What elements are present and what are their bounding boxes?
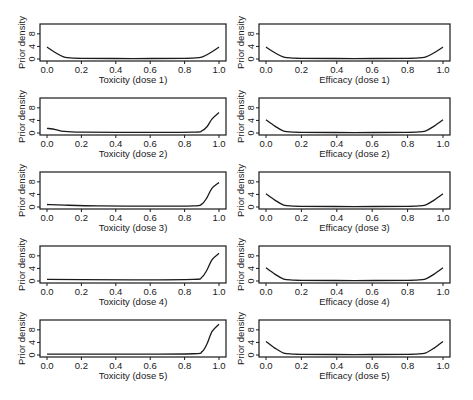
density-curve [47, 324, 219, 354]
plot-frame [40, 24, 226, 61]
x-tick-label: 0.0 [40, 64, 53, 75]
x-tick-label: 0.2 [75, 64, 88, 75]
y-tick-label: 8 [27, 253, 37, 258]
x-tick-label: 1.0 [436, 64, 449, 75]
y-axis-label: Prior density [235, 312, 246, 365]
x-tick-label: 0.8 [401, 138, 414, 149]
y-axis-label: Prior density [235, 90, 246, 143]
x-tick-label: 0.0 [40, 360, 53, 371]
x-axis-label: Toxicity (dose 2) [99, 148, 168, 159]
y-tick-label: 0 [27, 352, 37, 357]
x-tick-label: 0.8 [178, 64, 191, 75]
y-tick-label: 4 [27, 118, 37, 123]
density-curve [266, 120, 443, 133]
x-tick-label: 0.8 [401, 360, 414, 371]
y-axis-label: Prior density [16, 164, 27, 217]
y-tick-label: 4 [246, 340, 256, 345]
density-curve [266, 194, 443, 207]
x-tick-label: 0.8 [178, 286, 191, 297]
x-tick-label: 0.0 [259, 212, 272, 223]
x-tick-label: 0.0 [259, 360, 272, 371]
y-tick-label: 4 [246, 44, 256, 49]
y-axis-label: Prior density [16, 90, 27, 143]
x-tick-label: 0.0 [259, 286, 272, 297]
panel-efficacy-dose-1: 0.00.20.40.60.81.0048Prior densityEffica… [235, 16, 450, 85]
x-axis-label: Toxicity (dose 3) [99, 222, 168, 233]
x-tick-label: 0.0 [259, 138, 272, 149]
y-tick-label: 0 [27, 130, 37, 135]
x-tick-label: 0.0 [40, 138, 53, 149]
x-tick-label: 1.0 [212, 360, 225, 371]
x-tick-label: 0.2 [295, 212, 308, 223]
panel-efficacy-dose-5: 0.00.20.40.60.81.0048Prior densityEffica… [235, 312, 450, 381]
y-tick-label: 8 [246, 327, 256, 332]
density-curve [266, 47, 443, 58]
panel-toxicity-dose-3: 0.00.20.40.60.81.0048Prior densityToxici… [16, 164, 226, 233]
y-axis-label: Prior density [16, 312, 27, 365]
y-tick-label: 0 [27, 204, 37, 209]
panel-efficacy-dose-3: 0.00.20.40.60.81.0048Prior densityEffica… [235, 164, 450, 233]
x-tick-label: 0.2 [75, 138, 88, 149]
density-curve [47, 253, 219, 280]
x-tick-label: 0.0 [259, 64, 272, 75]
x-tick-label: 0.8 [401, 286, 414, 297]
x-tick-label: 0.2 [75, 360, 88, 371]
y-tick-label: 0 [246, 278, 256, 283]
x-axis-label: Efficacy (dose 4) [319, 296, 390, 307]
panel-toxicity-dose-1: 0.00.20.40.60.81.0048Prior densityToxici… [16, 16, 226, 85]
x-tick-label: 0.8 [178, 360, 191, 371]
density-curve [47, 113, 219, 133]
plot-frame [259, 320, 450, 357]
y-tick-label: 4 [27, 192, 37, 197]
y-tick-label: 8 [27, 179, 37, 184]
y-tick-label: 8 [27, 327, 37, 332]
x-tick-label: 0.8 [401, 212, 414, 223]
y-tick-label: 0 [246, 56, 256, 61]
plot-frame [40, 246, 226, 283]
x-axis-label: Efficacy (dose 2) [319, 148, 390, 159]
plot-frame [259, 246, 450, 283]
y-tick-label: 4 [27, 266, 37, 271]
plot-frame [259, 24, 450, 61]
y-tick-label: 8 [27, 31, 37, 36]
density-curve [47, 47, 219, 58]
x-tick-label: 1.0 [212, 212, 225, 223]
x-tick-label: 0.0 [40, 286, 53, 297]
y-tick-label: 8 [246, 31, 256, 36]
x-tick-label: 0.2 [75, 212, 88, 223]
x-tick-label: 0.2 [295, 64, 308, 75]
panel-efficacy-dose-2: 0.00.20.40.60.81.0048Prior densityEffica… [235, 90, 450, 159]
y-tick-label: 0 [27, 56, 37, 61]
plot-frame [40, 320, 226, 357]
y-tick-label: 0 [27, 278, 37, 283]
y-tick-label: 4 [246, 192, 256, 197]
x-tick-label: 0.2 [295, 286, 308, 297]
plot-frame [259, 98, 450, 135]
x-tick-label: 0.2 [295, 360, 308, 371]
x-tick-label: 0.2 [295, 138, 308, 149]
y-tick-label: 0 [246, 204, 256, 209]
x-tick-label: 0.0 [40, 212, 53, 223]
prior-density-grid: 0.00.20.40.60.81.0048Prior densityToxici… [0, 0, 473, 400]
y-tick-label: 4 [246, 266, 256, 271]
y-tick-label: 8 [246, 253, 256, 258]
x-tick-label: 1.0 [436, 212, 449, 223]
x-axis-label: Toxicity (dose 4) [99, 296, 168, 307]
y-axis-label: Prior density [235, 16, 246, 69]
x-tick-label: 1.0 [436, 138, 449, 149]
x-tick-label: 1.0 [436, 286, 449, 297]
x-tick-label: 0.8 [178, 212, 191, 223]
panel-toxicity-dose-4: 0.00.20.40.60.81.0048Prior densityToxici… [16, 238, 226, 307]
y-tick-label: 8 [27, 105, 37, 110]
plot-frame [40, 172, 226, 209]
y-tick-label: 8 [246, 179, 256, 184]
x-tick-label: 0.2 [75, 286, 88, 297]
y-tick-label: 4 [246, 118, 256, 123]
y-tick-label: 0 [246, 352, 256, 357]
x-axis-label: Efficacy (dose 5) [319, 370, 390, 381]
x-axis-label: Efficacy (dose 1) [319, 74, 390, 85]
density-curve [266, 268, 443, 281]
plot-frame [40, 98, 226, 135]
x-axis-label: Efficacy (dose 3) [319, 222, 390, 233]
y-tick-label: 4 [27, 340, 37, 345]
